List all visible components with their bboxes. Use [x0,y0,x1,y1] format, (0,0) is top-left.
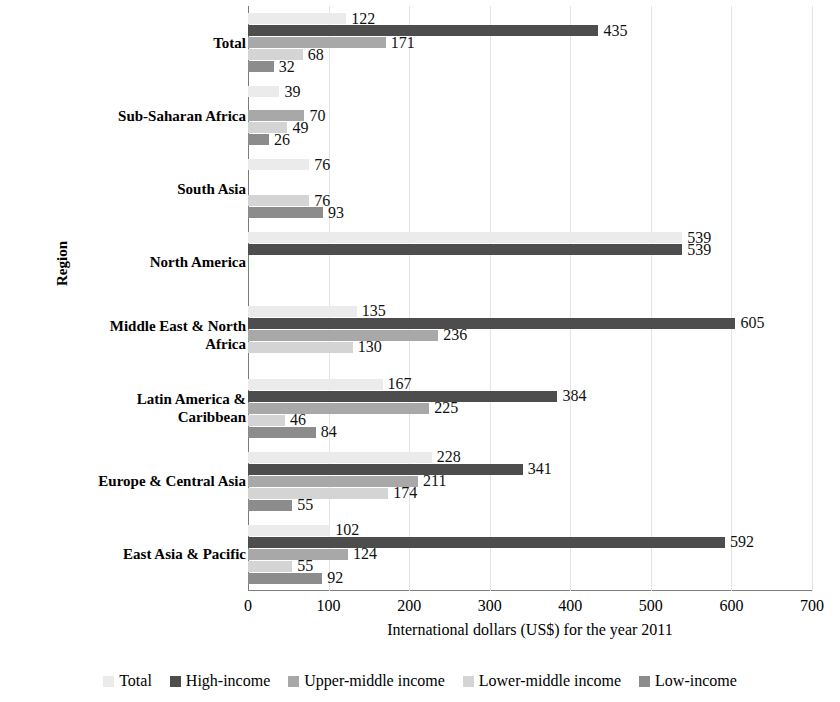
bar[interactable] [248,342,353,353]
legend-label: Upper-middle income [304,672,445,690]
legend-label: High-income [186,672,270,690]
bar[interactable] [248,488,388,499]
legend-item[interactable]: Upper-middle income [288,672,445,690]
legend-item[interactable]: Total [103,672,152,690]
bar-value-label: 92 [322,569,343,587]
bar-row: 135 [248,306,812,317]
bar[interactable] [248,500,292,511]
bar[interactable] [248,195,309,206]
bar-value-label: 55 [292,496,313,514]
bar[interactable] [248,573,322,584]
category-label: Sub-Saharan Africa [16,107,246,125]
category-label: Europe & Central Asia [16,472,246,490]
bar-group: 39704926 [248,86,812,145]
bar[interactable] [248,452,432,463]
bar-group: 767693 [248,159,812,218]
bar[interactable] [248,330,438,341]
legend-label: Total [119,672,152,690]
bar-row [248,98,812,109]
bar-value-label: 93 [323,204,344,222]
x-tick-label: 300 [460,597,520,615]
bar-row [248,256,812,267]
bar[interactable] [248,415,285,426]
bar-value-label: 26 [269,131,290,149]
legend-label: Low-income [655,672,737,690]
bar-row [248,354,812,365]
legend-swatch-icon [639,676,650,687]
bar-row: 174 [248,488,812,499]
bar-row: 124 [248,549,812,560]
bar-row: 26 [248,134,812,145]
bar-row: 236 [248,330,812,341]
bar[interactable] [248,61,274,72]
bar-value-label: 32 [274,58,295,76]
bar[interactable] [248,379,383,390]
x-tick-label: 400 [540,597,600,615]
category-label-line: North America [16,253,246,271]
legend-label: Lower-middle income [479,672,621,690]
legend-item[interactable]: Lower-middle income [463,672,621,690]
bar-row [248,280,812,291]
bar-group: 22834121117455 [248,452,812,511]
category-label-line: Africa [16,335,246,353]
category-label: East Asia & Pacific [16,545,246,563]
bar-row: 435 [248,25,812,36]
x-tick-label: 100 [299,597,359,615]
bar-row: 171 [248,37,812,48]
bar-row: 539 [248,232,812,243]
chart-legend: TotalHigh-incomeUpper-middle incomeLower… [0,672,840,690]
bar-row: 84 [248,427,812,438]
x-tick-label: 200 [379,597,439,615]
bar-row: 225 [248,403,812,414]
bar[interactable] [248,464,523,475]
bar-group: 1025921245592 [248,525,812,584]
bar-row: 49 [248,122,812,133]
bar-row: 605 [248,318,812,329]
bar-row: 130 [248,342,812,353]
bar-row [248,268,812,279]
legend-item[interactable]: High-income [170,672,270,690]
legend-swatch-icon [170,676,181,687]
bar[interactable] [248,134,269,145]
bar[interactable] [248,244,682,255]
category-label: North America [16,253,246,271]
bar-row: 70 [248,110,812,121]
x-tick-label: 700 [782,597,840,615]
bar[interactable] [248,207,323,218]
bar[interactable] [248,318,735,329]
legend-swatch-icon [288,676,299,687]
bar-group: 1224351716832 [248,13,812,72]
bar-row: 539 [248,244,812,255]
bar[interactable] [248,391,557,402]
category-label-line: South Asia [16,180,246,198]
bar-value-label: 84 [316,423,337,441]
bar-row [248,171,812,182]
bar[interactable] [248,232,682,243]
x-axis-title: International dollars (US$) for the year… [248,621,812,639]
category-label: Latin America &Caribbean [16,390,246,426]
bar[interactable] [248,537,725,548]
bar[interactable] [248,13,346,24]
bar[interactable] [248,25,598,36]
bar-row: 211 [248,476,812,487]
category-label-line: East Asia & Pacific [16,545,246,563]
bar[interactable] [248,525,330,536]
legend-swatch-icon [103,676,114,687]
bar[interactable] [248,403,429,414]
bar-group: 135605236130 [248,306,812,365]
plot-area: 1224351716832397049267676935395391356052… [248,6,812,591]
bar[interactable] [248,306,357,317]
bar-row: 122 [248,13,812,24]
bar-row: 39 [248,86,812,97]
bar[interactable] [248,561,292,572]
bar[interactable] [248,86,279,97]
legend-item[interactable]: Low-income [639,672,737,690]
bar-row: 55 [248,500,812,511]
bar-chart: Region 122435171683239704926767693539539… [0,0,840,702]
x-tick-label: 500 [621,597,681,615]
category-label-line: Caribbean [16,408,246,426]
bar[interactable] [248,427,316,438]
bar[interactable] [248,159,309,170]
gridline [812,6,813,591]
bar-row: 92 [248,573,812,584]
